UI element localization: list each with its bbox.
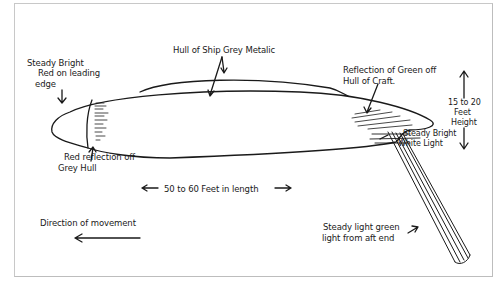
nose-line xyxy=(87,100,92,148)
label-length: 50 to 60 Feet in length xyxy=(164,184,258,194)
label-direction: Direction of movement xyxy=(40,218,136,228)
label-height-3: Height xyxy=(451,118,477,128)
label-green-light-2: light from aft end xyxy=(322,233,394,243)
label-red-leading-edge-3: edge xyxy=(35,79,56,89)
green-light-beam xyxy=(388,132,470,264)
hull-pointer-2 xyxy=(208,57,222,96)
label-red-reflection-1: Red reflection off xyxy=(64,152,135,162)
length-right-arrow xyxy=(275,185,291,191)
height-down-arrow xyxy=(460,128,468,149)
label-height-2: Feet xyxy=(454,108,471,118)
green-light-pointer xyxy=(408,226,418,233)
height-up-arrow xyxy=(460,71,468,98)
label-white-light-1: Steady Bright xyxy=(403,129,456,139)
green-reflection-pointer xyxy=(364,84,378,113)
green-reflection-hatch xyxy=(352,110,412,129)
length-left-arrow xyxy=(142,185,158,191)
red-reflection-hatch xyxy=(95,103,108,140)
hull-outline xyxy=(52,91,434,158)
label-height-1: 15 to 20 xyxy=(448,98,481,108)
label-red-reflection-2: Grey Hull xyxy=(58,163,96,173)
label-red-leading-edge-2: Red on leading xyxy=(38,68,100,78)
label-red-leading-edge-1: Steady Bright xyxy=(27,58,84,68)
label-hull-metalic: Hull of Ship Grey Metalic xyxy=(173,45,275,55)
label-white-light-2: White Light xyxy=(398,139,443,149)
label-green-light-1: Steady light green xyxy=(323,222,400,232)
label-green-reflection-2: Hull of Craft. xyxy=(343,76,395,86)
red-edge-pointer xyxy=(58,90,66,103)
direction-arrow xyxy=(75,234,140,242)
label-green-reflection-1: Reflection of Green off xyxy=(343,65,436,75)
